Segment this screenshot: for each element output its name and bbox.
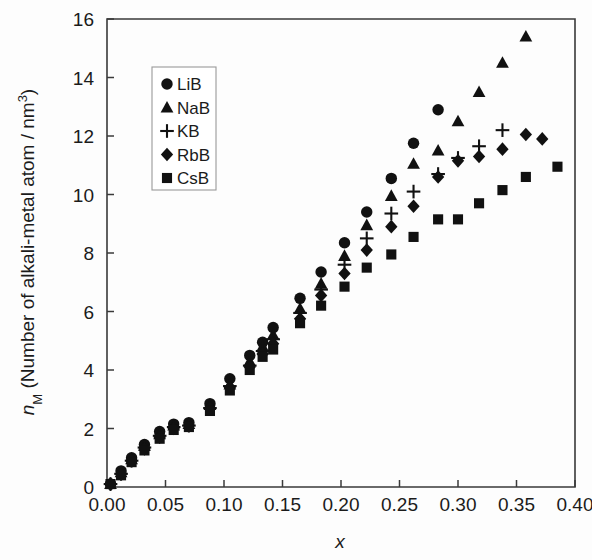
data-point-triangle [496, 56, 509, 68]
data-point-diamond [536, 132, 548, 146]
x-tick-label: 0.35 [498, 494, 535, 515]
data-point-square [386, 249, 396, 259]
data-point-diamond [315, 289, 327, 303]
x-tick-label: 0.25 [381, 494, 418, 515]
y-tick-label: 8 [83, 243, 94, 264]
data-point-square [339, 282, 349, 292]
x-tick-label: 0.20 [323, 494, 360, 515]
data-point-triangle [385, 189, 398, 201]
data-point-diamond [432, 170, 444, 184]
data-point-square [105, 479, 115, 489]
x-tick-label: 0.10 [206, 494, 243, 515]
data-point-square [433, 214, 443, 224]
legend-label-lib: LiB [177, 75, 202, 94]
y-axis-title: nM (Number of alkali-metal atom / nm3) [15, 89, 45, 415]
data-point-square [184, 422, 194, 432]
data-point-triangle [407, 157, 420, 169]
data-point-diamond [496, 142, 508, 156]
data-point-square [408, 232, 418, 242]
data-point-diamond [338, 267, 350, 281]
data-point-circle [432, 104, 443, 115]
y-tick-label: 12 [73, 126, 94, 147]
legend-label-rbb: RbB [177, 146, 210, 165]
chart-legend: LiBNaBKBRbBCsB [152, 67, 216, 190]
figure-container: 0.000.050.100.150.200.250.300.350.40 024… [0, 0, 592, 560]
data-point-square [362, 263, 372, 273]
data-point-square [453, 214, 463, 224]
data-point-triangle [473, 86, 486, 98]
series-csb [105, 162, 562, 489]
y-tick-label: 0 [83, 477, 94, 498]
x-axis-tick-labels: 0.000.050.100.150.200.250.300.350.40 [89, 494, 592, 515]
data-point-plus [407, 185, 421, 199]
x-tick-label: 0.00 [89, 494, 126, 515]
data-point-triangle [432, 144, 445, 156]
data-point-circle [339, 237, 350, 248]
x-axis-ticks [107, 480, 575, 487]
data-point-triangle [519, 30, 532, 42]
x-axis-title: x [334, 531, 346, 552]
legend-label-kb: KB [177, 122, 200, 141]
x-tick-label: 0.30 [440, 494, 477, 515]
scatter-plot: 0.000.050.100.150.200.250.300.350.40 024… [0, 0, 592, 560]
data-point-square [116, 470, 126, 480]
data-point-plus [360, 232, 374, 246]
data-point-square [139, 445, 149, 455]
data-point-square [295, 318, 305, 328]
data-point-square [268, 344, 278, 354]
data-point-square [316, 301, 326, 311]
data-point-square [205, 406, 215, 416]
y-tick-label: 10 [73, 185, 94, 206]
data-point-circle [361, 206, 372, 217]
legend-marker-circle [161, 78, 172, 89]
data-point-circle [386, 173, 397, 184]
x-tick-label: 0.05 [147, 494, 184, 515]
data-point-diamond [361, 243, 373, 257]
data-point-plus [496, 123, 510, 137]
data-point-square [245, 365, 255, 375]
data-point-triangle [360, 219, 373, 231]
x-tick-label: 0.40 [557, 494, 592, 515]
y-tick-label: 2 [83, 419, 94, 440]
data-point-diamond [385, 220, 397, 234]
data-point-square [474, 198, 484, 208]
data-point-square [155, 434, 165, 444]
x-tick-label: 0.15 [264, 494, 301, 515]
data-point-square [497, 185, 507, 195]
y-tick-label: 4 [83, 360, 94, 381]
data-point-square [552, 162, 562, 172]
y-axis-tick-labels: 0246810121416 [73, 9, 95, 498]
data-point-circle [408, 138, 419, 149]
data-point-square [127, 457, 137, 467]
legend-label-csb: CsB [177, 169, 209, 188]
data-point-plus [384, 207, 398, 221]
y-axis-ticks [107, 19, 114, 487]
y-tick-label: 14 [73, 68, 95, 89]
data-point-diamond [520, 128, 532, 142]
y-tick-label: 16 [73, 9, 94, 30]
data-point-square [521, 172, 531, 182]
data-point-square [169, 425, 179, 435]
legend-marker-square [162, 173, 172, 183]
data-point-circle [315, 266, 326, 277]
data-point-square [258, 352, 268, 362]
y-tick-label: 6 [83, 302, 94, 323]
data-point-diamond [407, 199, 419, 213]
legend-label-nab: NaB [177, 99, 210, 118]
data-point-triangle [452, 115, 465, 127]
data-point-diamond [452, 154, 464, 168]
data-point-square [225, 385, 235, 395]
data-point-diamond [473, 150, 485, 164]
